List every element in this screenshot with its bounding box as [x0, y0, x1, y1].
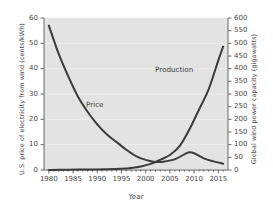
- x-tick-2005: 2005: [157, 175, 183, 183]
- y-right-tick-350: 350: [234, 77, 254, 85]
- y-right-tick-400: 400: [234, 64, 254, 72]
- y-left-tick-30: 30: [20, 90, 38, 98]
- y-right-tick-450: 450: [234, 52, 254, 60]
- x-tick-1995: 1995: [108, 175, 134, 183]
- y-left-tick-10: 10: [20, 140, 38, 148]
- y-right-tick-300: 300: [234, 90, 254, 98]
- y-right-tick-200: 200: [234, 115, 254, 123]
- y-right-tick-150: 150: [234, 128, 254, 136]
- x-axis-title: Year: [44, 193, 228, 201]
- x-tick-1985: 1985: [60, 175, 86, 183]
- y-right-tick-250: 250: [234, 102, 254, 110]
- x-tick-1980: 1980: [36, 175, 62, 183]
- wind-energy-chart: U.S. price of electricity from wind (cen…: [0, 0, 273, 211]
- y-left-tick-60: 60: [20, 14, 38, 22]
- y-right-tick-50: 50: [234, 153, 254, 161]
- y-left-tick-20: 20: [20, 115, 38, 123]
- y-right-tick-500: 500: [234, 39, 254, 47]
- y-right-tick-0: 0: [234, 166, 254, 174]
- y-left-tick-0: 0: [20, 166, 38, 174]
- y-left-tick-40: 40: [20, 64, 38, 72]
- x-tick-2000: 2000: [133, 175, 159, 183]
- y-right-tick-100: 100: [234, 140, 254, 148]
- x-tick-1990: 1990: [84, 175, 110, 183]
- x-tick-2015: 2015: [205, 175, 231, 183]
- x-tick-2010: 2010: [181, 175, 207, 183]
- production-series-label: Production: [155, 65, 193, 74]
- y-right-tick-550: 550: [234, 26, 254, 34]
- y-left-tick-50: 50: [20, 39, 38, 47]
- price-series-label: Price: [86, 100, 104, 109]
- y-right-tick-600: 600: [234, 14, 254, 22]
